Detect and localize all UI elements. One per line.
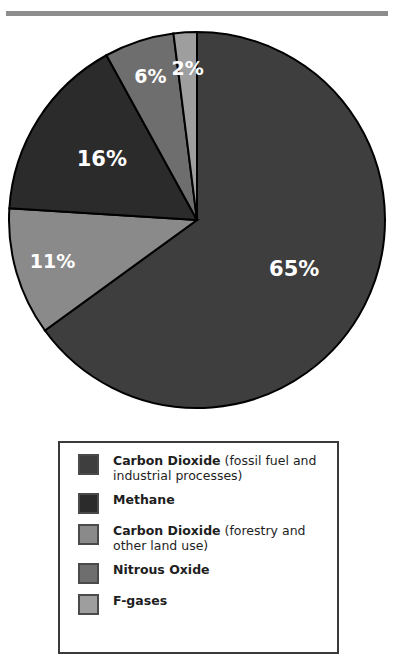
legend-swatch [78, 594, 99, 615]
legend: Carbon Dioxide (fossil fuel and industri… [58, 441, 339, 654]
legend-series-name: Carbon Dioxide [113, 523, 221, 538]
legend-swatch [78, 493, 99, 514]
legend-series-name: Carbon Dioxide [113, 453, 221, 468]
legend-swatch [78, 524, 99, 545]
legend-swatch [78, 563, 99, 584]
legend-label: Carbon Dioxide (forestry and other land … [113, 523, 325, 553]
legend-label: Nitrous Oxide [113, 562, 210, 577]
legend-item: Methane [78, 492, 329, 514]
legend-item: F-gases [78, 593, 329, 615]
pie-slices [9, 32, 385, 408]
legend-swatch [78, 454, 99, 475]
pie-label-nitrous-oxide: 6% [134, 65, 166, 87]
legend-series-name: Nitrous Oxide [113, 562, 210, 577]
legend-series-name: F-gases [113, 593, 167, 608]
legend-list: Carbon Dioxide (fossil fuel and industri… [78, 453, 329, 624]
pie-label-f-gases: 2% [171, 57, 203, 79]
legend-label: F-gases [113, 593, 167, 608]
legend-item: Nitrous Oxide [78, 562, 329, 584]
pie-label-carbon-dioxide-forestry: 11% [30, 250, 75, 272]
legend-item: Carbon Dioxide (fossil fuel and industri… [78, 453, 329, 483]
top-horizontal-rule [6, 11, 388, 16]
pie-chart: 65%11%16%6%2% [7, 22, 387, 422]
legend-item: Carbon Dioxide (forestry and other land … [78, 523, 329, 553]
legend-series-name: Methane [113, 492, 175, 507]
legend-label: Methane [113, 492, 175, 507]
legend-label: Carbon Dioxide (fossil fuel and industri… [113, 453, 325, 483]
pie-chart-area: 65%11%16%6%2% [0, 22, 394, 422]
pie-label-methane: 16% [77, 147, 127, 171]
pie-label-carbon-dioxide-fossil: 65% [269, 257, 319, 281]
